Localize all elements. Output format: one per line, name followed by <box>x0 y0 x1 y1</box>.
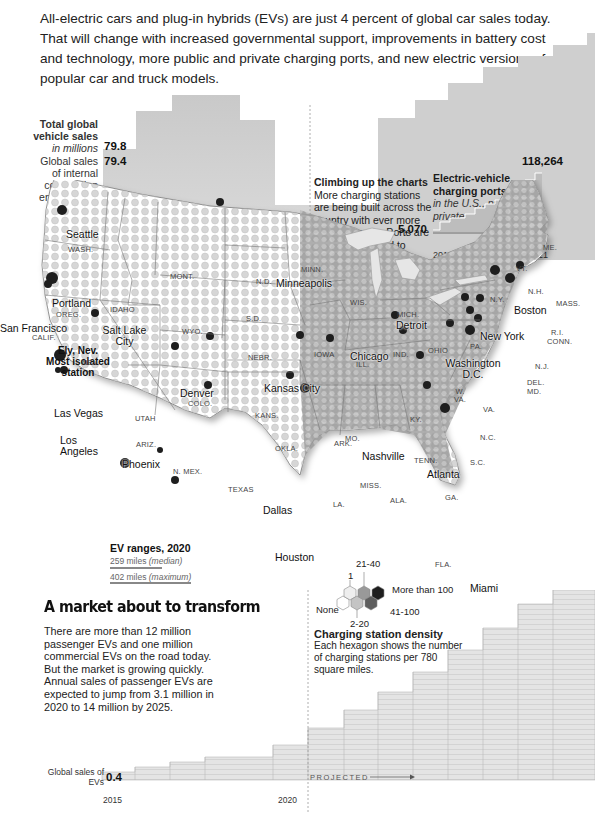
state-label: ME. <box>543 243 557 252</box>
state-label: NEV. <box>82 358 100 367</box>
median-range-label: 259 miles (median) <box>110 556 182 566</box>
city-label-kansas-city: Kansas City <box>264 382 320 394</box>
state-label: NEBR. <box>248 353 272 362</box>
city-label-phoenix: Phoenix <box>122 458 160 470</box>
city-label-dallas: Dallas <box>263 504 292 516</box>
state-label: OKLA. <box>275 444 298 453</box>
section-headline: A market about to transform <box>44 597 260 616</box>
state-label: W. VA. <box>450 388 470 404</box>
projected-label: PROJECTED <box>310 773 369 782</box>
state-label: COLO. <box>188 399 212 408</box>
ev-ranges-title: EV ranges, 2020 <box>110 542 191 554</box>
city-label-atlanta: Atlanta <box>427 468 460 480</box>
state-label: R.I. <box>551 328 563 337</box>
city-label-boston: Boston <box>514 304 547 316</box>
city-label-houston: Houston <box>275 551 314 563</box>
state-label: N.C. <box>480 433 496 442</box>
state-label: KY. <box>410 415 422 424</box>
city-label-denver: Denver <box>180 387 214 399</box>
city-label-nashville: Nashville <box>362 450 405 462</box>
city-label-washington: Washington D.C. <box>443 358 503 380</box>
ev-sales-start-value: 0.4 <box>106 771 122 783</box>
state-label: PA. <box>470 342 482 351</box>
state-label: N.H. <box>528 287 544 296</box>
state-label: WIS. <box>350 298 367 307</box>
legend-21-40: 21-40 <box>356 558 380 569</box>
state-label: FLA. <box>435 560 452 569</box>
state-label: WYO. <box>182 327 203 336</box>
ev-ranges-chart: EV ranges, 2020 259 miles (median) 402 m… <box>110 542 191 554</box>
density-text: Each hexagon shows the number of chargin… <box>314 640 462 675</box>
state-label: KANS. <box>255 411 279 420</box>
max-range-label: 402 miles (maximum) <box>110 572 191 582</box>
city-label-detroit: Detroit <box>396 319 427 331</box>
state-label: MASS. <box>556 299 580 308</box>
state-label: IOWA <box>314 350 335 359</box>
state-label: OHIO <box>428 346 448 355</box>
section-body: There are more than 12 million passenger… <box>44 625 214 713</box>
state-label: S.D. <box>246 314 261 323</box>
max-range-bar <box>110 582 191 584</box>
density-title: Charging station density <box>314 628 464 640</box>
state-label: LA. <box>333 500 345 509</box>
state-label: MISS. <box>360 481 381 490</box>
city-label-los-angeles: Los Angeles <box>60 435 90 457</box>
state-label: N.Y. <box>490 295 504 304</box>
state-label: ARK. <box>334 439 352 448</box>
legend-41-100: 41-100 <box>390 606 420 617</box>
state-label: TENN. <box>414 456 438 465</box>
state-label: MONT. <box>170 272 194 281</box>
legend-none: None <box>316 604 339 615</box>
state-label: GA. <box>445 493 459 502</box>
state-label: OREG. <box>56 310 81 319</box>
city-label-seattle: Seattle <box>66 228 99 240</box>
total-sales-label: Total global vehicle sales in millions <box>30 118 98 154</box>
state-label: N. MEX. <box>173 467 202 476</box>
legend-one: 1 <box>348 570 353 581</box>
state-label: CALIF. <box>32 333 56 342</box>
state-label: TEXAS <box>228 485 254 494</box>
state-label: DEL. <box>527 378 544 387</box>
state-label: ILL. <box>356 360 369 369</box>
us-charging-density-map: Seattle Portland San Francisco Salt Lake… <box>0 180 595 600</box>
city-label-new-york: New York <box>480 330 524 342</box>
state-label: VA. <box>483 405 495 414</box>
year-2015: 2015 <box>103 795 122 805</box>
ice-sales-value: 79.4 <box>104 155 126 167</box>
state-label: MINN. <box>301 265 323 274</box>
total-sales-value: 79.8 <box>104 140 126 152</box>
state-label: WASH. <box>68 245 93 254</box>
state-label: MICH. <box>397 310 419 319</box>
city-label-portland: Portland <box>52 297 91 309</box>
city-label-minneapolis: Minneapolis <box>276 277 332 289</box>
state-label: N.J. <box>535 362 549 371</box>
state-label: UTAH <box>135 414 156 423</box>
city-label-las-vegas: Las Vegas <box>54 407 103 419</box>
state-label: N.D. <box>256 277 272 286</box>
state-label: S.C. <box>470 458 485 467</box>
year-2020: 2020 <box>278 795 297 805</box>
state-label: ARIZ. <box>136 440 156 449</box>
density-note: Charging station density Each hexagon sh… <box>314 628 464 676</box>
ely-annotation: Ely, Nev. Most isolated station <box>38 345 118 378</box>
ev-sales-label: Global sales of EVs <box>40 767 104 787</box>
median-range-bar <box>110 567 162 569</box>
state-label: ALA. <box>390 496 407 505</box>
state-label: VT. <box>516 264 527 273</box>
state-label: IND. <box>393 350 409 359</box>
legend-over-100: More than 100 <box>392 584 453 595</box>
state-label: CONN. <box>547 337 572 346</box>
city-label-salt-lake-city: Salt Lake City <box>102 325 147 347</box>
state-label: IDAHO <box>110 305 135 314</box>
state-label: MD. <box>527 387 541 396</box>
ports-end-value: 118,264 <box>522 155 563 167</box>
